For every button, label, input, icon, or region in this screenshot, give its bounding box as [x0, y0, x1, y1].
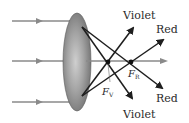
focal-point-violet [106, 60, 111, 65]
label-red-top: Red [156, 23, 178, 36]
label-violet-bottom: Violet [122, 108, 156, 121]
arrow-icon [36, 18, 43, 24]
ray-red-upper [82, 40, 163, 96]
arrow-icon [36, 58, 43, 64]
label-focus-violet: F V [101, 86, 114, 98]
arrow-icon [36, 99, 43, 105]
axis-arrow-icon [160, 58, 168, 64]
label-violet-top: Violet [122, 9, 156, 22]
refracted-rays [82, 27, 163, 98]
focus-violet-subscript: V [108, 91, 114, 98]
label-red-bottom: Red [156, 92, 178, 105]
converging-lens [63, 13, 91, 111]
focus-red-subscript: R [135, 73, 140, 80]
focal-point-red [129, 60, 134, 65]
chromatic-aberration-diagram: Violet Red Red Violet F V F R [0, 0, 189, 123]
